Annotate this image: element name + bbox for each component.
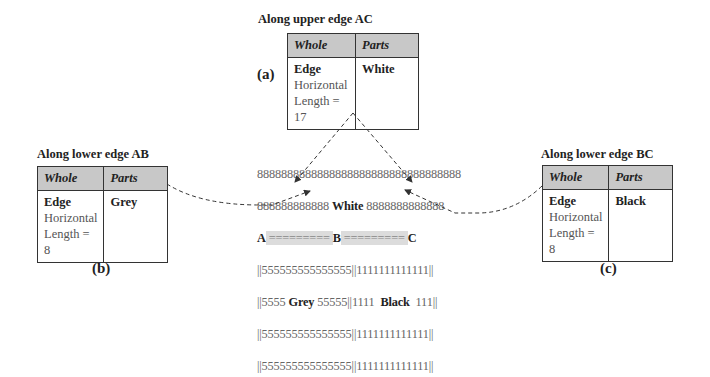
parts-value: Black [615, 193, 666, 209]
grid-row: ||555555555555555||1111111111111|| [257, 358, 461, 374]
whole-parts-table-b: Whole Parts Edge Horizontal Length = 8 G… [37, 166, 168, 263]
parts-cell: White [356, 58, 419, 130]
whole-orientation: Horizontal [294, 77, 349, 93]
grid-row: ||5555 Grey 55555||1111 Black 111|| [257, 294, 461, 310]
region-label-grey: Grey [289, 295, 315, 309]
whole-parts-table-c: Whole Parts Edge Horizontal Length = 8 B… [542, 165, 673, 262]
whole-parts-table-a: Whole Parts Edge Horizontal Length = 17 … [287, 33, 419, 130]
panel-label-b: (b) [92, 260, 110, 277]
caption-upper-edge-ac: Along upper edge AC [258, 12, 373, 27]
corner-a: A [257, 231, 266, 245]
whole-cell: Edge Horizontal Length = 17 [288, 58, 356, 130]
grid-fill: 55555||1111 [314, 295, 380, 309]
edge-ab: ========= [266, 231, 333, 245]
region-label-black: Black [380, 295, 409, 309]
corner-c: C [408, 231, 417, 245]
whole-length: Length = 17 [294, 93, 349, 125]
edge-bc: ========= [341, 231, 408, 245]
grid-row: ||555555555555555||1111111111111|| [257, 262, 461, 278]
whole-name: Edge [44, 194, 97, 210]
parts-cell: Black [609, 190, 673, 262]
whole-orientation: Horizontal [549, 209, 602, 225]
whole-orientation: Horizontal [44, 210, 97, 226]
region-label-white: White [332, 199, 363, 213]
header-parts: Parts [356, 34, 419, 58]
header-parts: Parts [609, 166, 673, 190]
header-whole: Whole [543, 166, 609, 190]
grid-fill: 888888888888 [257, 199, 332, 213]
grid-fill: ||5555 [257, 295, 289, 309]
whole-name: Edge [549, 193, 602, 209]
whole-cell: Edge Horizontal Length = 8 [543, 190, 609, 262]
parts-value: White [362, 61, 412, 77]
grid-row: 8888888888888888888888888888888888 [257, 166, 461, 182]
header-whole: Whole [288, 34, 356, 58]
parts-value: Grey [110, 194, 161, 210]
caption-lower-edge-bc: Along lower edge BC [541, 147, 654, 162]
whole-length: Length = 8 [549, 225, 602, 257]
image-grid: 8888888888888888888888888888888888 88888… [257, 150, 461, 377]
grid-fill: 111|| [410, 295, 438, 309]
corner-b: B [333, 231, 341, 245]
grid-row: 888888888888 White 8888888888888 [257, 198, 461, 214]
whole-length: Length = 8 [44, 226, 97, 258]
panel-label-c: (c) [600, 260, 617, 277]
header-parts: Parts [104, 167, 168, 191]
header-whole: Whole [38, 167, 104, 191]
parts-cell: Grey [104, 191, 168, 263]
grid-row-edge: A ========= B ========= C [257, 230, 461, 246]
grid-row: ||555555555555555||1111111111111|| [257, 326, 461, 342]
whole-name: Edge [294, 61, 349, 77]
panel-label-a: (a) [257, 66, 275, 83]
grid-fill: 8888888888888 [363, 199, 444, 213]
whole-cell: Edge Horizontal Length = 8 [38, 191, 104, 263]
caption-lower-edge-ab: Along lower edge AB [37, 147, 149, 162]
